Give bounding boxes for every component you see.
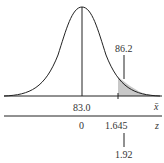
z-critical-label: 1.645: [105, 120, 128, 131]
z-zero-label: 0: [79, 120, 84, 131]
mean-label: 83.0: [73, 102, 91, 113]
normal-curve-diagram: 86.2 83.0 x̄ 0 1.645 z 1.92: [0, 0, 164, 163]
z-observed-label: 1.92: [115, 149, 133, 160]
observed-xbar-label: 86.2: [115, 43, 133, 54]
xbar-axis-label: x̄: [153, 101, 159, 112]
z-axis-label: z: [154, 120, 159, 131]
